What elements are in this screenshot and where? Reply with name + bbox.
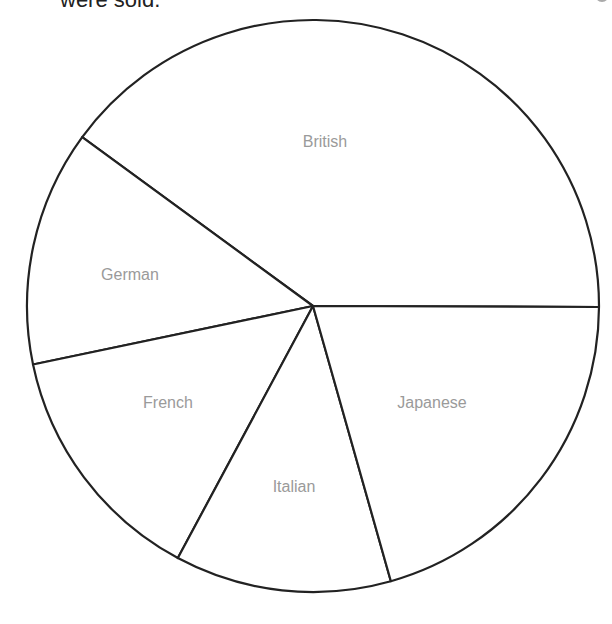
- slice-label-japanese: Japanese: [397, 394, 466, 411]
- slice-label-british: British: [303, 133, 347, 150]
- pie-chart: BritishGermanFrenchItalianJapanese: [0, 0, 612, 624]
- slice-label-french: French: [143, 394, 193, 411]
- slice-label-german: German: [101, 266, 159, 283]
- slice-label-italian: Italian: [273, 478, 316, 495]
